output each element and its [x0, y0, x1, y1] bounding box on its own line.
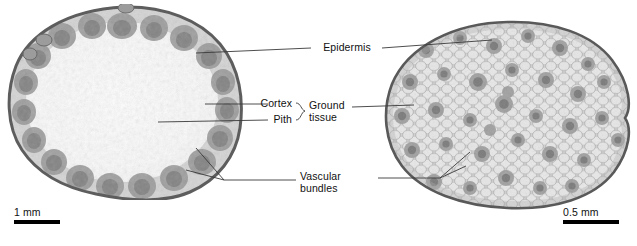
scale-bar-right-label: 0.5 mm — [563, 206, 619, 218]
scale-bar-left-rule — [14, 220, 60, 224]
scale-bar-right-rule — [563, 220, 619, 224]
figure-canvas: Epidermis Cortex Pith Ground tissue Vasc… — [0, 0, 637, 246]
label-vascular-bundles-line2: bundles — [300, 183, 376, 195]
scale-bar-left: 1 mm — [14, 206, 60, 224]
label-vascular-bundles-line1: Vascular — [300, 171, 376, 183]
specimen-monocot-stem — [382, 20, 632, 210]
specimen-eudicot-stem — [4, 4, 248, 200]
label-vascular-bundles: Vascular bundles — [300, 171, 376, 194]
label-ground-tissue: Ground tissue — [309, 100, 353, 123]
label-cortex: Cortex — [230, 98, 292, 110]
label-ground-tissue-line2: tissue — [309, 112, 353, 124]
scale-bar-left-label: 1 mm — [14, 206, 60, 218]
scale-bar-right: 0.5 mm — [563, 206, 619, 224]
label-epidermis: Epidermis — [315, 42, 379, 54]
label-pith: Pith — [230, 114, 292, 126]
label-ground-tissue-line1: Ground — [309, 100, 353, 112]
